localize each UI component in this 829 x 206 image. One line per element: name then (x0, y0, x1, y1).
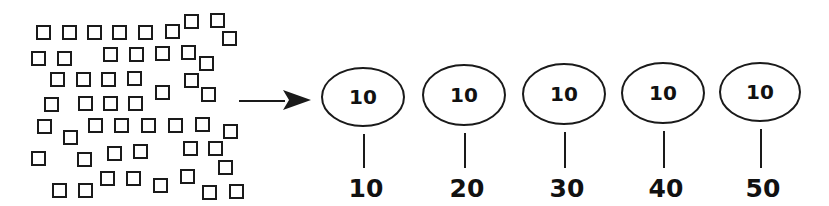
square-icon (166, 25, 179, 38)
square-icon (224, 125, 237, 138)
group-count: 10 (349, 85, 377, 109)
square-icon (200, 57, 213, 70)
square-icon (78, 153, 91, 166)
group-count: 10 (746, 80, 774, 104)
square-icon (108, 147, 121, 160)
group-4: 10 40 (622, 63, 704, 203)
cumulative-total: 30 (550, 174, 585, 203)
square-icon (181, 170, 194, 183)
square-icon (58, 52, 71, 65)
group-count: 10 (550, 82, 578, 106)
square-icon (45, 98, 58, 111)
square-icon (169, 119, 182, 132)
group-count: 10 (649, 81, 677, 105)
square-icon (127, 172, 140, 185)
group-5: 10 50 (720, 63, 800, 203)
cumulative-total: 50 (746, 174, 781, 203)
square-icon (182, 46, 195, 59)
square-icon (37, 26, 50, 39)
square-icon (32, 152, 45, 165)
group-3: 10 30 (523, 64, 605, 203)
square-icon (142, 119, 155, 132)
square-icon (88, 26, 101, 39)
square-icon (101, 172, 114, 185)
square-icon (154, 179, 167, 192)
group-1: 10 10 (322, 68, 404, 203)
square-icon (115, 119, 128, 132)
square-icon (77, 73, 90, 86)
square-icon (64, 131, 77, 144)
square-icon (38, 120, 51, 133)
square-icon (128, 72, 141, 85)
square-icon (63, 26, 76, 39)
square-icon (79, 97, 92, 110)
square-icon (134, 145, 147, 158)
square-icon (211, 14, 224, 27)
square-icon (156, 86, 169, 99)
square-icon (184, 142, 197, 155)
square-icon (32, 52, 45, 65)
square-icon (130, 48, 143, 61)
grouping-diagram: 10 10 10 20 10 30 10 40 10 50 (0, 0, 829, 206)
square-icon (219, 161, 232, 174)
square-icon (139, 26, 152, 39)
square-icon (79, 184, 92, 197)
group-2: 10 20 (423, 65, 505, 203)
square-icon (196, 118, 209, 131)
square-icon (104, 48, 117, 61)
square-icon (156, 47, 169, 60)
cumulative-total: 40 (649, 174, 684, 203)
square-icon (223, 32, 236, 45)
square-icon (89, 119, 102, 132)
square-icon (102, 73, 115, 86)
arrow-icon (239, 90, 311, 110)
square-icon (53, 184, 66, 197)
arrow-head (283, 90, 311, 110)
cumulative-total: 10 (349, 174, 384, 203)
square-icon (203, 186, 216, 199)
square-icon (202, 88, 215, 101)
group-count: 10 (450, 83, 478, 107)
square-icon (185, 74, 198, 87)
square-icon (209, 142, 222, 155)
square-icon (230, 185, 243, 198)
square-icon (51, 73, 64, 86)
square-icon (104, 97, 117, 110)
scattered-squares (32, 14, 243, 199)
square-icon (185, 15, 198, 28)
square-icon (113, 26, 126, 39)
square-icon (129, 97, 142, 110)
cumulative-total: 20 (450, 174, 485, 203)
